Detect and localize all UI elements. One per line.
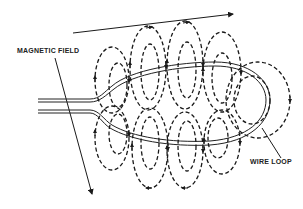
magnetic-field-label: MAGNETIC FIELD: [17, 47, 79, 54]
wire-loop: [38, 62, 270, 145]
current-direction-arrow: [73, 14, 233, 33]
wire-loop-label: WIRE LOOP: [250, 158, 292, 165]
wire-loop-pointer: [262, 128, 281, 158]
magnetic-field-pointer: [55, 58, 92, 194]
magnetic-field-diagram: MAGNETIC FIELD WIRE LOOP: [0, 0, 303, 209]
